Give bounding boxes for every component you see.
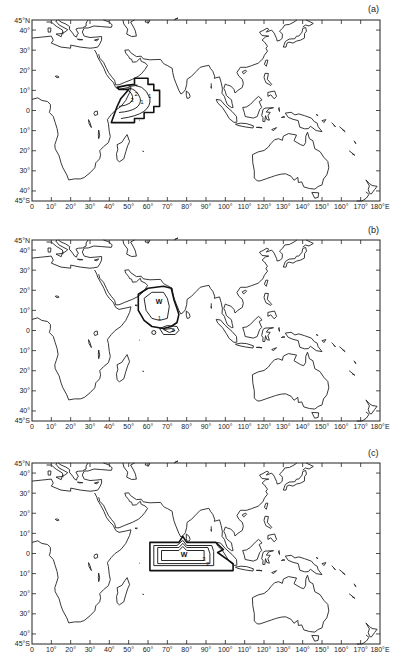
lon-tick-label: 180°E bbox=[370, 203, 389, 210]
lon-tick-label: 20° bbox=[65, 203, 76, 210]
map-panel-b: (b) 45°N40°30°20°10°010°20°30°40°45°S010… bbox=[0, 220, 405, 442]
coastlines bbox=[32, 18, 377, 201]
lon-tick-label: 140° bbox=[295, 646, 310, 653]
lat-tick-label: 20° bbox=[19, 510, 30, 517]
map-a: 45°N40°30°20°10°010°20°30°40°45°S010°20°… bbox=[0, 0, 405, 220]
lon-tick-label: 140° bbox=[295, 203, 310, 210]
lon-tick-label: 20° bbox=[65, 646, 76, 653]
lat-tick-label: 40° bbox=[19, 407, 30, 414]
lon-tick-label: 50° bbox=[123, 646, 134, 653]
lon-tick-label: 30° bbox=[85, 646, 96, 653]
lon-tick-label: 180°E bbox=[370, 646, 389, 653]
coastlines bbox=[32, 238, 377, 421]
lon-tick-label: 130° bbox=[276, 203, 291, 210]
lon-tick-label: 80° bbox=[181, 423, 192, 430]
lat-tick-label: 20° bbox=[19, 147, 30, 154]
lon-tick-label: 60° bbox=[143, 646, 154, 653]
lon-tick-label: 130° bbox=[276, 646, 291, 653]
lon-tick-label: 10° bbox=[46, 646, 57, 653]
lon-tick-label: 40° bbox=[104, 646, 115, 653]
lon-tick-label: 100° bbox=[218, 423, 233, 430]
contour-label: 2 bbox=[131, 97, 135, 103]
lat-tick-label: 10° bbox=[19, 127, 30, 134]
lon-tick-label: 150° bbox=[315, 646, 330, 653]
lon-tick-label: 90° bbox=[201, 646, 212, 653]
lat-tick-label: 40° bbox=[19, 27, 30, 34]
lat-tick-label: 45°S bbox=[15, 197, 31, 204]
contour-label: 1 bbox=[148, 93, 152, 99]
lon-tick-label: 140° bbox=[295, 423, 310, 430]
lon-tick-label: 110° bbox=[238, 203, 252, 210]
anomaly-contours: W32 bbox=[150, 536, 233, 570]
lon-tick-label: 30° bbox=[85, 203, 96, 210]
lon-tick-label: 0 bbox=[30, 423, 34, 430]
warm-anomaly-marker: W bbox=[156, 298, 163, 305]
lon-tick-label: 100° bbox=[218, 646, 233, 653]
lat-tick-label: 10° bbox=[19, 87, 30, 94]
lon-tick-label: 30° bbox=[85, 423, 96, 430]
lat-tick-label: 20° bbox=[19, 367, 30, 374]
lon-tick-label: 20° bbox=[65, 423, 76, 430]
lat-tick-label: 0 bbox=[26, 107, 30, 114]
lon-tick-label: 0 bbox=[30, 646, 34, 653]
lon-tick-label: 10° bbox=[46, 423, 57, 430]
lon-tick-label: 100° bbox=[218, 203, 233, 210]
lon-tick-label: 160° bbox=[334, 423, 349, 430]
lat-tick-label: 40° bbox=[19, 187, 30, 194]
lon-tick-label: 50° bbox=[123, 203, 134, 210]
lon-tick-label: 150° bbox=[315, 423, 330, 430]
lat-tick-label: 30° bbox=[19, 267, 30, 274]
contour-label: 1 bbox=[140, 99, 144, 105]
lon-tick-label: 60° bbox=[143, 203, 154, 210]
lon-tick-label: 60° bbox=[143, 423, 154, 430]
lon-tick-label: 160° bbox=[334, 646, 349, 653]
lat-tick-label: 0 bbox=[26, 327, 30, 334]
lon-tick-label: 50° bbox=[123, 423, 134, 430]
lat-tick-label: 10° bbox=[19, 530, 30, 537]
lat-tick-label: 40° bbox=[19, 630, 30, 637]
map-panel-a: (a) 45°N40°30°20°10°010°20°30°40°45°S010… bbox=[0, 0, 405, 220]
lon-tick-label: 40° bbox=[104, 203, 115, 210]
lat-tick-label: 30° bbox=[19, 610, 30, 617]
lat-tick-label: 45°S bbox=[15, 417, 31, 424]
map-panel-c: (c) 45°N40°30°20°10°010°20°30°40°45°S010… bbox=[0, 442, 405, 657]
lon-tick-label: 160° bbox=[334, 203, 349, 210]
lat-tick-label: 10° bbox=[19, 570, 30, 577]
lat-tick-label: 20° bbox=[19, 287, 30, 294]
map-content: 45°N40°30°20°10°010°20°30°40°45°S010°20°… bbox=[14, 237, 390, 430]
contour-label: 1 bbox=[158, 315, 162, 321]
lat-tick-label: 10° bbox=[19, 307, 30, 314]
lat-tick-label: 30° bbox=[19, 47, 30, 54]
lat-tick-label: 45°N bbox=[14, 237, 30, 244]
lon-tick-label: 110° bbox=[238, 646, 252, 653]
map-content: 45°N40°30°20°10°010°20°30°40°45°S010°20°… bbox=[14, 460, 390, 653]
lon-tick-label: 130° bbox=[276, 423, 291, 430]
lon-tick-label: 90° bbox=[201, 423, 212, 430]
lon-tick-label: 70° bbox=[162, 423, 173, 430]
warm-anomaly-marker: W bbox=[181, 551, 188, 558]
lat-tick-label: 40° bbox=[19, 470, 30, 477]
lon-tick-label: 110° bbox=[238, 423, 252, 430]
lon-tick-label: 120° bbox=[257, 203, 272, 210]
lon-tick-label: 170° bbox=[353, 646, 368, 653]
lat-tick-label: 0 bbox=[26, 550, 30, 557]
contour-label: 2 bbox=[171, 327, 175, 333]
lon-tick-label: 180°E bbox=[370, 423, 389, 430]
lat-tick-label: 30° bbox=[19, 387, 30, 394]
lat-tick-label: 45°N bbox=[14, 460, 30, 467]
lon-tick-label: 80° bbox=[181, 646, 192, 653]
map-b: 45°N40°30°20°10°010°20°30°40°45°S010°20°… bbox=[0, 220, 405, 442]
lon-tick-label: 10° bbox=[46, 203, 57, 210]
lat-tick-label: 20° bbox=[19, 590, 30, 597]
lat-tick-label: 20° bbox=[19, 67, 30, 74]
lon-tick-label: 40° bbox=[104, 423, 115, 430]
lat-tick-label: 30° bbox=[19, 167, 30, 174]
map-c: 45°N40°30°20°10°010°20°30°40°45°S010°20°… bbox=[0, 442, 405, 657]
lon-tick-label: 150° bbox=[315, 203, 330, 210]
lon-tick-label: 170° bbox=[353, 423, 368, 430]
lat-tick-label: 45°N bbox=[14, 17, 30, 24]
lat-tick-label: 45°S bbox=[15, 640, 31, 647]
lon-tick-label: 120° bbox=[257, 423, 272, 430]
lat-tick-label: 30° bbox=[19, 490, 30, 497]
map-content: 45°N40°30°20°10°010°20°30°40°45°S010°20°… bbox=[14, 17, 390, 210]
